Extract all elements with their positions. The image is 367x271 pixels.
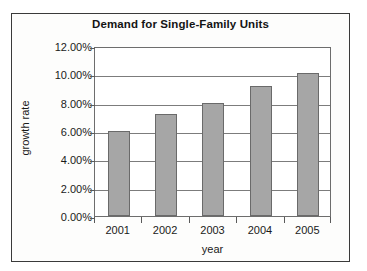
bar-series bbox=[95, 48, 330, 216]
plot-area bbox=[94, 47, 331, 217]
x-axis-title: year bbox=[94, 243, 331, 255]
x-axis-tick-mark bbox=[284, 217, 285, 223]
bar-slot bbox=[190, 48, 237, 216]
bar[interactable] bbox=[297, 73, 319, 216]
y-axis-tick-label: 12.00% bbox=[34, 41, 92, 53]
x-axis-tick-mark bbox=[94, 217, 95, 223]
bar[interactable] bbox=[108, 131, 130, 216]
bar-slot bbox=[142, 48, 189, 216]
y-axis-tick-label: 4.00% bbox=[34, 154, 92, 166]
x-axis-tick-labels: 20012002200320042005 bbox=[94, 224, 331, 242]
bar[interactable] bbox=[202, 103, 224, 216]
y-axis-tick-label: 6.00% bbox=[34, 126, 92, 138]
chart-container: Demand for Single-Family Units growth ra… bbox=[11, 13, 350, 262]
y-axis-title: growth rate bbox=[19, 93, 31, 163]
x-axis-tick-mark bbox=[141, 217, 142, 223]
x-axis-tick-mark bbox=[236, 217, 237, 223]
bar-slot bbox=[95, 48, 142, 216]
bar-slot bbox=[285, 48, 332, 216]
x-axis-tick-label: 2001 bbox=[105, 224, 129, 236]
bar-slot bbox=[237, 48, 284, 216]
y-axis-tick-label: 2.00% bbox=[34, 183, 92, 195]
y-axis-tick-label: 10.00% bbox=[34, 69, 92, 81]
x-axis-tick-label: 2002 bbox=[153, 224, 177, 236]
bar[interactable] bbox=[250, 86, 272, 216]
chart-title: Demand for Single-Family Units bbox=[12, 18, 349, 30]
x-axis-tick-label: 2005 bbox=[295, 224, 319, 236]
bar[interactable] bbox=[155, 114, 177, 216]
x-axis-tick-label: 2004 bbox=[248, 224, 272, 236]
x-axis-tick-mark bbox=[330, 217, 331, 223]
y-axis-tick-label: 0.00% bbox=[34, 211, 92, 223]
x-axis-tick-label: 2003 bbox=[200, 224, 224, 236]
x-axis-tick-marks bbox=[94, 217, 331, 223]
x-axis-tick-mark bbox=[189, 217, 190, 223]
y-axis-tick-label: 8.00% bbox=[34, 98, 92, 110]
y-axis-tick-labels: 0.00%2.00%4.00%6.00%8.00%10.00%12.00% bbox=[34, 47, 92, 217]
